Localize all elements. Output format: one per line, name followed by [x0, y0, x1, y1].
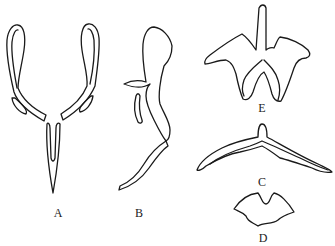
panel-e-fork — [243, 60, 280, 100]
figure-canvas: A B E C D — [0, 0, 335, 246]
panel-label-b: B — [135, 206, 143, 220]
panel-d-drawing — [234, 193, 294, 226]
panel-label-d: D — [259, 231, 268, 245]
panel-d-outline — [234, 193, 294, 226]
panel-label-a: A — [54, 206, 63, 220]
panel-a-drawing — [7, 24, 99, 193]
panel-c-drawing — [197, 124, 332, 172]
panel-a-right-loop-inner — [88, 29, 94, 84]
panel-e-outline — [205, 5, 310, 101]
panel-label-c: C — [258, 175, 266, 189]
panel-b-head — [124, 27, 172, 141]
panel-a-left-loop-inner — [12, 30, 18, 88]
panel-b-drawing — [119, 27, 172, 190]
panel-c-outline — [197, 124, 332, 172]
panel-a-right-small-lobe — [80, 96, 93, 112]
panel-b-tail — [119, 141, 168, 190]
panel-a-median-stalk — [47, 123, 60, 193]
panel-e-drawing — [205, 5, 310, 101]
panel-label-e: E — [258, 101, 265, 115]
panel-b-inner-bar — [135, 94, 143, 123]
